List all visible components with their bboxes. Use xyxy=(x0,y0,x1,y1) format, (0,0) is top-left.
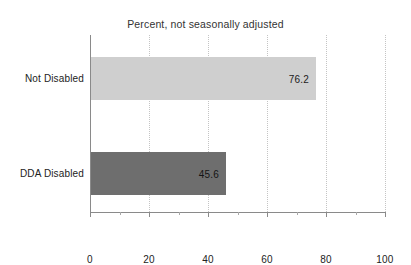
tick-60 xyxy=(267,212,268,217)
y-axis-line xyxy=(90,35,91,212)
category-label-not-disabled: Not Disabled xyxy=(0,73,84,84)
bar-dda-disabled: 45.6 xyxy=(91,152,226,195)
tick-minor-70 xyxy=(297,212,298,215)
tick-40 xyxy=(208,212,209,217)
xtick-label-80: 80 xyxy=(311,254,341,265)
tick-20 xyxy=(149,212,150,217)
xtick-label-100: 100 xyxy=(370,254,400,265)
plot-area: 76.2 45.6 0 20 40 60 80 100 xyxy=(90,35,385,212)
tick-minor-30 xyxy=(179,212,180,215)
xtick-label-60: 60 xyxy=(252,254,282,265)
bar-value-dda-disabled: 45.6 xyxy=(199,168,219,179)
gridline-80 xyxy=(326,35,328,212)
xtick-label-40: 40 xyxy=(193,254,223,265)
bar-not-disabled: 76.2 xyxy=(91,57,316,100)
tick-minor-90 xyxy=(356,212,357,215)
xtick-label-0: 0 xyxy=(75,254,105,265)
category-label-dda-disabled: DDA Disabled xyxy=(0,168,84,179)
tick-80 xyxy=(326,212,327,217)
bar-value-not-disabled: 76.2 xyxy=(289,73,309,84)
xtick-label-20: 20 xyxy=(134,254,164,265)
tick-minor-50 xyxy=(238,212,239,215)
tick-minor-10 xyxy=(120,212,121,215)
chart-title: Percent, not seasonally adjusted xyxy=(0,18,411,30)
tick-100 xyxy=(385,212,386,217)
tick-0 xyxy=(90,212,91,217)
gridline-100 xyxy=(385,35,387,212)
